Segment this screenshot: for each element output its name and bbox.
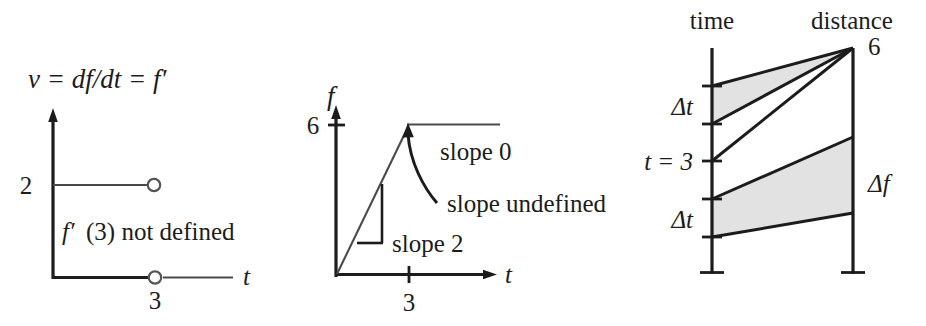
panel-velocity-graph: v = df/dt = f′ 2 3 t f′ (3) not defined (20, 64, 251, 314)
velocity-y-axis-arrowhead (48, 108, 58, 122)
velocity-equation: v = df/dt = f′ (28, 64, 167, 94)
velocity-x-tick-label-3: 3 (149, 287, 162, 314)
velocity-y-tick-label-2: 2 (20, 172, 33, 199)
velocity-open-circle-at-0 (149, 271, 161, 283)
distance-x-axis-arrowhead (483, 270, 497, 280)
velocity-x-axis-label: t (243, 263, 251, 290)
timeline-header-distance: distance (811, 7, 893, 34)
distance-annotation-slope-zero: slope 0 (440, 138, 512, 165)
timeline-label-delta-f: Δf (867, 170, 893, 197)
distance-x-axis-label: t (505, 261, 513, 288)
panel-distance-graph: f 6 3 t slope 0 slope undefined (307, 81, 607, 316)
velocity-note-text: (3) not defined (86, 218, 235, 246)
timeline-label-delta-t-upper: Δt (670, 93, 694, 120)
timeline-label-delta-t-lower: Δt (670, 206, 694, 233)
timeline-header-time: time (690, 7, 734, 34)
figure-container: v = df/dt = f′ 2 3 t f′ (3) not defined … (0, 0, 926, 326)
distance-y-tick-label-6: 6 (307, 112, 320, 139)
timeline-label-t-equals-3: t = 3 (644, 148, 693, 175)
panel-time-distance-diagram: time distance (644, 7, 893, 274)
distance-slope-undefined-arrow-curve (408, 134, 437, 203)
distance-annotation-slope-two: slope 2 (392, 230, 464, 257)
velocity-open-circle-at-2 (148, 179, 160, 191)
timeline-lower-shaded-band (712, 137, 853, 237)
timeline-label-value-6: 6 (868, 33, 881, 60)
distance-annotation-slope-undefined: slope undefined (447, 190, 606, 217)
velocity-note-fprime: f′ (62, 218, 75, 245)
figure-svg: v = df/dt = f′ 2 3 t f′ (3) not defined … (0, 0, 926, 326)
distance-x-tick-label-3: 3 (403, 289, 416, 316)
